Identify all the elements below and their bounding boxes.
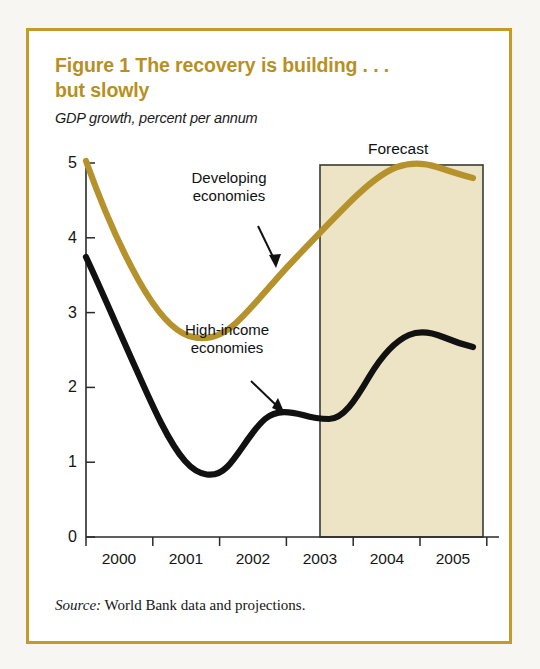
- series-label-developing-line-1: Developing: [191, 169, 266, 186]
- x-tick-label-2003: 2003: [290, 550, 350, 568]
- figure-frame: Figure 1 The recovery is building . . . …: [26, 28, 512, 644]
- series-label-high-income-line-1: High-income: [185, 321, 269, 338]
- figure-title: Figure 1 The recovery is building . . . …: [55, 53, 475, 103]
- x-tick-label-2000: 2000: [89, 550, 149, 568]
- annotation-arrow-developing-economies: [258, 226, 281, 268]
- x-tick-label-2002: 2002: [223, 550, 283, 568]
- source-note: Source: World Bank data and projections.: [55, 597, 305, 614]
- x-tick-label-2005: 2005: [423, 550, 483, 568]
- forecast-region-label: Forecast: [368, 140, 428, 158]
- x-axis-ticks: [86, 537, 487, 546]
- x-tick-label-2001: 2001: [156, 550, 216, 568]
- figure-inner: Figure 1 The recovery is building . . . …: [29, 31, 509, 641]
- series-label-high-income-economies: High-income economies: [157, 321, 297, 357]
- figure-title-line-2: but slowly: [55, 79, 149, 101]
- y-tick-label-4: 4: [51, 229, 77, 247]
- series-label-developing-economies: Developing economies: [164, 169, 294, 205]
- chart-plot-area: 0 1 2 3 4 5 2000 2001 2002 2003 2004 200…: [29, 131, 509, 591]
- annotation-arrow-high-income-economies: [251, 381, 285, 414]
- x-tick-label-2004: 2004: [357, 550, 417, 568]
- source-text: World Bank data and projections.: [101, 597, 305, 613]
- series-label-developing-line-2: economies: [193, 187, 266, 204]
- series-label-high-income-line-2: economies: [191, 339, 264, 356]
- y-tick-label-5: 5: [51, 154, 77, 172]
- y-tick-label-1: 1: [51, 453, 77, 471]
- y-axis-ticks: [86, 163, 95, 537]
- y-tick-label-0: 0: [51, 528, 77, 546]
- y-tick-label-3: 3: [51, 304, 77, 322]
- forecast-shaded-region: [320, 165, 483, 537]
- figure-root: Figure 1 The recovery is building . . . …: [0, 0, 540, 669]
- figure-title-line-1: Figure 1 The recovery is building . . .: [55, 54, 389, 76]
- source-prefix: Source:: [55, 597, 101, 613]
- figure-subtitle: GDP growth, percent per annum: [55, 110, 257, 126]
- y-tick-label-2: 2: [51, 378, 77, 396]
